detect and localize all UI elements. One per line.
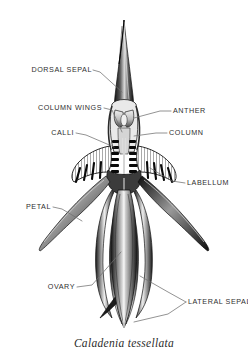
- label-petal: PETAL: [10, 203, 51, 210]
- label-lateral-sepals: LATERAL SEPALS: [188, 298, 248, 305]
- label-labellum: LABELLUM: [187, 179, 229, 186]
- label-ovary: OVARY: [32, 283, 75, 290]
- label-column: COLUMN: [169, 129, 203, 136]
- botanical-figure: DORSAL SEPAL COLUMN WINGS CALLI PETAL OV…: [0, 0, 248, 360]
- label-dorsal-sepal: DORSAL SEPAL: [18, 66, 92, 73]
- figure-caption: Caladenia tessellata: [0, 337, 248, 349]
- label-column-wings: COLUMN WINGS: [14, 104, 102, 111]
- label-calli: CALLI: [34, 129, 74, 136]
- label-anther: ANTHER: [173, 107, 206, 114]
